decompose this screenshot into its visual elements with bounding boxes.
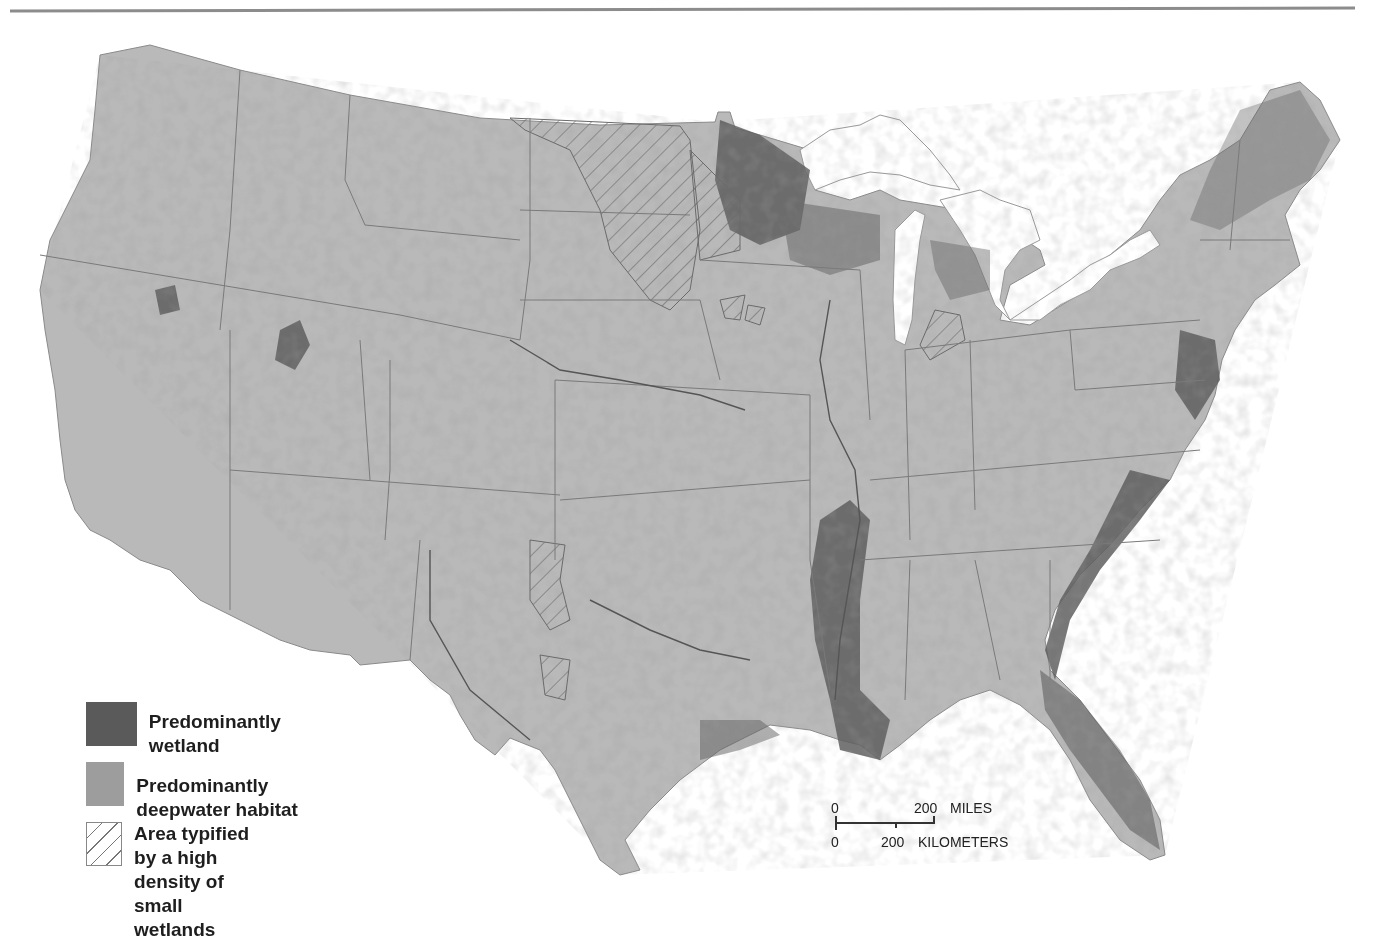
scale-bar: 0 200 MILES 0 200 KILOMETERS — [828, 800, 1048, 860]
legend-item-wetland: Predominantly wetland — [86, 702, 300, 758]
scale-km-zero: 0 — [831, 834, 839, 850]
deepwater-swatch — [86, 762, 124, 806]
legend-label-line2: density of small wetlands — [134, 870, 249, 940]
scale-km-unit: KILOMETERS — [918, 834, 1008, 850]
scale-line — [835, 822, 935, 824]
wetland-swatch — [86, 702, 137, 746]
legend-item-small-wetlands: Area typified by a high density of small… — [86, 822, 249, 940]
legend-item-deepwater: Predominantly deepwater habitat — [86, 762, 300, 822]
scale-tick-km — [895, 822, 897, 828]
legend-label-wetland: Predominantly wetland — [149, 710, 300, 758]
legend-label-line1: Area typified by a high — [134, 822, 249, 870]
hatch-swatch — [86, 822, 122, 866]
scale-miles-value: 200 — [914, 800, 937, 816]
scale-miles-zero: 0 — [831, 800, 839, 816]
scale-tick-zero — [835, 816, 837, 830]
scale-tick-miles — [933, 816, 935, 823]
legend-label-deepwater: Predominantly deepwater habitat — [136, 774, 300, 822]
legend-label-small-wetlands: Area typified by a high density of small… — [134, 822, 249, 940]
scale-km-value: 200 — [881, 834, 904, 850]
scale-miles-unit: MILES — [950, 800, 992, 816]
